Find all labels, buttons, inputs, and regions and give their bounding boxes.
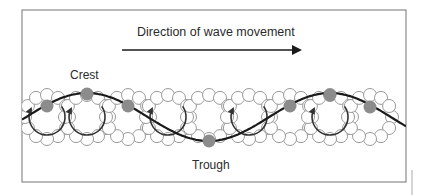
- highlighted-particle: [81, 88, 94, 101]
- crest-label: Crest: [70, 68, 99, 82]
- highlighted-particle: [203, 135, 216, 148]
- highlighted-particle: [284, 100, 297, 113]
- highlighted-particle: [122, 100, 135, 113]
- water-particle-ring: [383, 100, 396, 113]
- highlighted-particle: [364, 101, 377, 114]
- trough-label: Trough: [192, 158, 230, 172]
- highlighted-particle: [324, 89, 337, 102]
- direction-label: Direction of wave movement: [137, 25, 295, 39]
- highlighted-particle: [41, 100, 54, 113]
